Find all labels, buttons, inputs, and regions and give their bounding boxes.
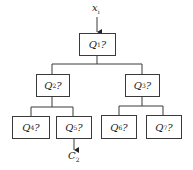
input-label: xi: [92, 2, 100, 15]
tree-connectors: [0, 0, 193, 170]
output-label: C2: [68, 150, 79, 163]
node-q4: Q4?: [12, 116, 50, 139]
node-q7: Q7?: [146, 115, 182, 139]
node-q6: Q6?: [101, 115, 137, 139]
node-q5: Q5?: [56, 116, 92, 139]
node-q1: Q1?: [79, 33, 116, 56]
node-q2: Q2?: [36, 74, 70, 97]
node-q3: Q3?: [125, 74, 160, 97]
